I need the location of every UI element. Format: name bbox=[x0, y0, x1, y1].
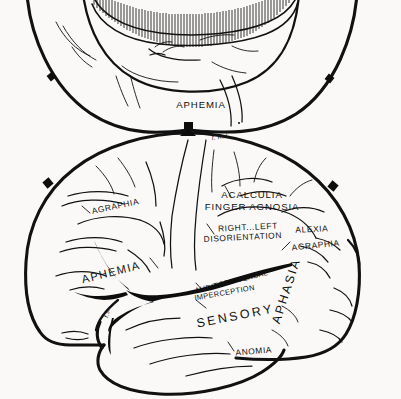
label-finger-agnosia: FINGER AGNOSIA bbox=[205, 201, 300, 212]
label-aphemia-upper: APHEMIA bbox=[176, 99, 225, 110]
junction-marker-upper bbox=[184, 122, 193, 129]
label-alexia: ALEXIA bbox=[295, 223, 328, 235]
rolando-point-marker bbox=[238, 122, 240, 124]
brain-diagram-figure: APHEMIA f. Rol. bbox=[0, 0, 401, 399]
label-acalculia: ACALCULIA bbox=[221, 189, 282, 200]
brain-diagram-svg: APHEMIA f. Rol. bbox=[0, 0, 401, 399]
